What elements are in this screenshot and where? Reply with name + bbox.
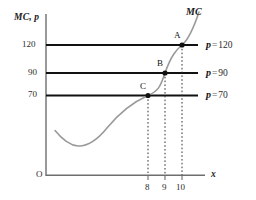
xtick-label-9: 9 — [162, 183, 167, 192]
point-label-a: A — [174, 31, 181, 40]
point-marker-c — [145, 93, 150, 98]
price-value: 120 — [218, 40, 232, 50]
point-marker-a — [179, 42, 184, 47]
price-label-90: p=90 — [206, 68, 228, 79]
point-marker-b — [162, 70, 167, 75]
ytick-label-70: 70 — [28, 90, 37, 99]
origin-label: O — [36, 170, 43, 179]
mc-curve-label: MC — [186, 7, 202, 17]
ytick-label-90: 90 — [28, 68, 37, 77]
x-axis-title: x — [211, 170, 216, 180]
price-label-70: p=70 — [206, 90, 228, 101]
point-label-b: B — [157, 59, 163, 68]
xtick-label-8: 8 — [145, 183, 150, 192]
price-value: 90 — [218, 68, 228, 78]
y-axis-title: MC, p — [14, 13, 39, 23]
point-label-c: C — [140, 82, 146, 91]
ytick-label-120: 120 — [22, 40, 36, 49]
price-value: 70 — [218, 90, 228, 100]
marginal-cost-chart: MC, p x O MC 120 90 70 8 9 10 A B C p=12… — [0, 0, 256, 200]
price-label-120: p=120 — [206, 40, 233, 51]
xtick-label-10: 10 — [176, 183, 185, 192]
